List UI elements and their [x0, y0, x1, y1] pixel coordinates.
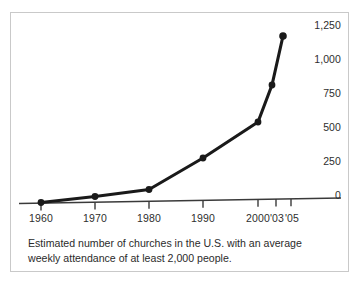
y-tick-label-1000: 1,000	[314, 54, 341, 65]
figure-border	[10, 12, 349, 272]
chart-figure: 1,250 1,000 750 500 250 0 1960 1970 1980…	[0, 0, 360, 286]
x-tick-label-1960: 1960	[29, 212, 53, 224]
x-tick-label-1970: 1970	[83, 212, 107, 224]
y-tick-label-1250: 1,250	[314, 20, 341, 31]
chart-caption: Estimated number of churches in the U.S.…	[28, 236, 328, 265]
x-tick-label-1990: 1990	[191, 212, 215, 224]
y-tick-label-500: 500	[323, 122, 341, 133]
x-tick-label-1980: 1980	[137, 212, 161, 224]
x-tick-label-03: '03	[270, 212, 284, 224]
y-tick-label-0: 0	[335, 190, 341, 201]
x-tick-label-2000: 2000	[246, 212, 270, 224]
y-tick-label-750: 750	[323, 88, 341, 99]
caption-line-1: Estimated number of churches in the U.S.…	[28, 236, 328, 251]
y-tick-label-250: 250	[323, 156, 341, 167]
caption-line-2: weekly attendance of at least 2,000 peop…	[28, 251, 328, 266]
x-tick-label-05: '05	[285, 212, 299, 224]
